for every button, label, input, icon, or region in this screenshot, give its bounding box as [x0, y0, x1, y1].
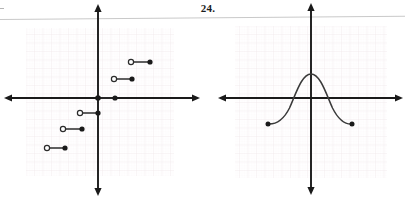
graph-grid: [26, 28, 174, 176]
bell-curve-svg: [205, 0, 405, 200]
y-axis-arrow-up: [307, 3, 314, 11]
step-function-graph: [0, 0, 205, 200]
open-endpoint: [77, 110, 82, 115]
closed-endpoint: [129, 76, 134, 81]
y-axis-arrow-down: [94, 188, 101, 196]
bell-curve-graph: [205, 0, 405, 200]
y-axis-arrow-up: [94, 4, 101, 12]
closed-endpoint-origin: [95, 95, 101, 101]
x-axis-arrow-left: [4, 94, 12, 101]
x-axis-arrow-right: [395, 94, 403, 101]
open-endpoint: [111, 76, 116, 81]
y-axis-arrow-down: [307, 187, 314, 195]
closed-endpoint: [95, 110, 100, 115]
open-endpoint: [128, 59, 133, 64]
closed-endpoint: [79, 126, 84, 131]
step-function-svg: [0, 0, 205, 200]
closed-endpoint-left: [266, 122, 271, 127]
x-axis-arrow-left: [218, 94, 226, 101]
closed-endpoint: [147, 59, 152, 64]
open-endpoint: [44, 145, 49, 150]
x-axis-arrow-right: [192, 94, 200, 101]
closed-endpoint: [62, 145, 67, 150]
closed-endpoint: [112, 95, 117, 100]
open-endpoint: [60, 126, 65, 131]
closed-endpoint-right: [350, 122, 355, 127]
worksheet-page: 24.: [0, 0, 405, 200]
